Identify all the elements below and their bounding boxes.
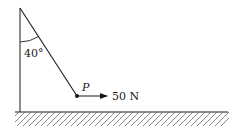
angle-arc — [20, 37, 39, 43]
angle-label: 40° — [24, 47, 44, 60]
ground-hatching — [5, 112, 235, 126]
force-diagram: 40° P 50 N — [0, 0, 240, 136]
diagram-canvas: 40° P 50 N — [0, 0, 240, 136]
force-label: 50 N — [112, 90, 139, 103]
point-label: P — [81, 81, 90, 94]
